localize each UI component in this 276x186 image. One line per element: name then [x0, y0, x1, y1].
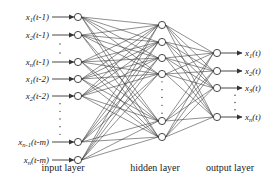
output-node — [213, 113, 220, 120]
ellipsis-dot — [161, 89, 162, 90]
input-node — [74, 31, 81, 38]
input-label: x1(t-1) — [25, 12, 49, 23]
input-label: x2(t-2) — [25, 91, 49, 102]
input-label: xn-1(t-m) — [17, 137, 49, 148]
ellipsis-dot — [161, 112, 162, 113]
connection-edge — [82, 25, 159, 35]
output-node — [213, 49, 220, 56]
ellipsis-dots — [59, 43, 235, 135]
hidden-node — [158, 38, 165, 45]
hidden-node — [158, 21, 165, 28]
ellipsis-dot — [234, 95, 235, 96]
output-label: x1(t) — [244, 48, 261, 59]
ellipsis-dot — [234, 109, 235, 110]
input-node — [74, 138, 81, 145]
hidden-node — [158, 117, 165, 124]
input-node — [74, 92, 81, 99]
output-node — [213, 84, 220, 91]
input-label: x2(t-1) — [25, 30, 49, 41]
output-label: x2(t) — [244, 66, 261, 77]
output-layer-label: output layer — [206, 162, 255, 173]
hidden-layer-label: hidden layer — [130, 162, 180, 173]
ellipsis-dot — [161, 105, 162, 106]
ellipsis-dot — [161, 97, 162, 98]
ellipsis-dot — [59, 103, 60, 104]
input-label: xn(t-1) — [25, 57, 49, 68]
ellipsis-dot — [59, 118, 60, 119]
neural-network-diagram: x1(t-1)x2(t-1)xn(t-1)x1(t-2)x2(t-2)xn-1(… — [0, 0, 276, 186]
connection-edges — [82, 17, 214, 160]
ellipsis-dot — [59, 52, 60, 53]
connection-edge — [82, 25, 159, 142]
ellipsis-dot — [59, 111, 60, 112]
connection-edge — [166, 117, 214, 121]
connection-edge — [166, 42, 214, 117]
hidden-node — [158, 70, 165, 77]
connection-edge — [166, 88, 214, 121]
ellipsis-dot — [59, 134, 60, 135]
input-layer-label: input layer — [41, 162, 85, 173]
hidden-node — [158, 54, 165, 61]
output-label: xn(t) — [244, 112, 261, 123]
input-node — [74, 13, 81, 20]
connection-edge — [82, 42, 159, 160]
input-node — [74, 58, 81, 65]
layer-labels: input layer hidden layer output layer — [41, 162, 254, 173]
ellipsis-dot — [59, 43, 60, 44]
ellipsis-dot — [59, 126, 60, 127]
connection-edge — [166, 25, 214, 71]
connection-edge — [166, 58, 214, 88]
ellipsis-dot — [234, 102, 235, 103]
connection-edge — [82, 25, 159, 96]
output-node — [213, 67, 220, 74]
connection-edge — [82, 96, 159, 137]
hidden-node — [158, 133, 165, 140]
input-label: x1(t-2) — [25, 74, 49, 85]
output-label: x3(t) — [244, 83, 261, 94]
connection-edge — [82, 25, 159, 62]
connection-edge — [166, 71, 214, 121]
connection-edge — [166, 42, 214, 53]
input-node — [74, 75, 81, 82]
ellipsis-dot — [161, 81, 162, 82]
connection-edge — [166, 58, 214, 71]
